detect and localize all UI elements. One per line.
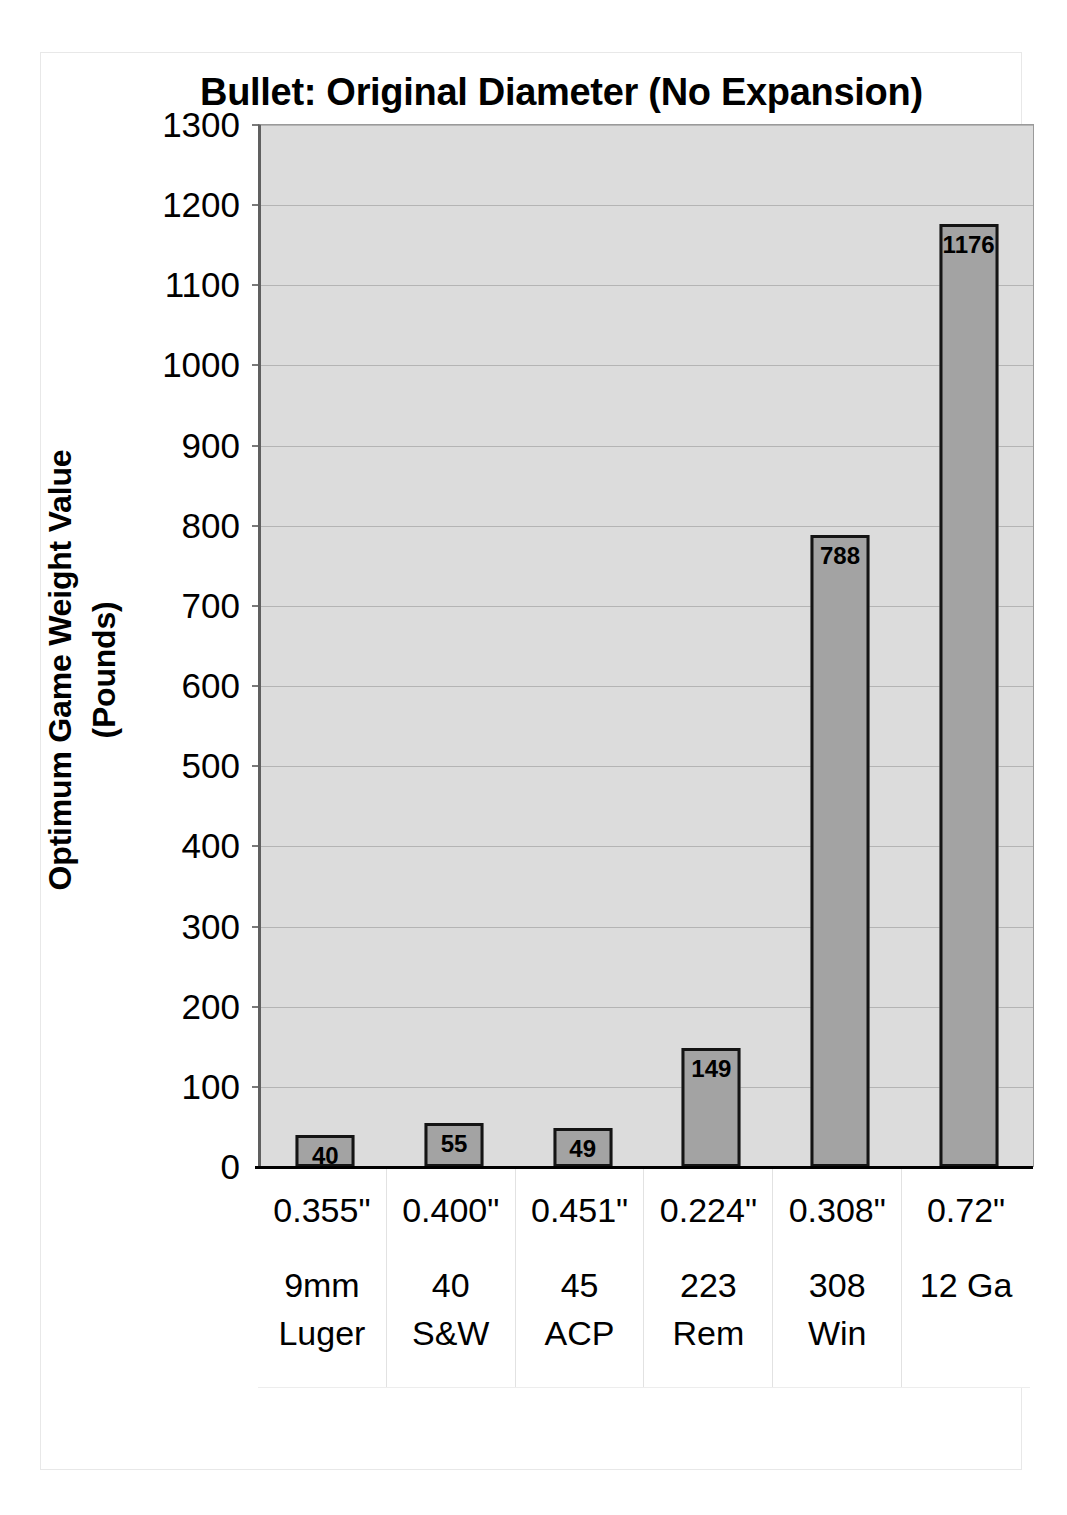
category-cell: 0.224"223Rem [644,1169,773,1387]
y-axis-tick-label: 200 [140,989,240,1024]
bar[interactable]: 40 [296,1135,355,1167]
category-cell: 0.355"9mmLuger [258,1169,387,1387]
category-name-label: 308Win [773,1261,901,1357]
bar-value-label: 788 [813,543,866,569]
category-name-label: 9mmLuger [258,1261,386,1357]
category-name-line-2: Luger [258,1309,386,1357]
category-name-line-1: 223 [644,1261,772,1309]
category-name-label: 45ACP [516,1261,644,1357]
y-axis-tick-label: 1300 [140,107,240,142]
category-name-label: 223Rem [644,1261,772,1357]
bar-slot: 788 [776,125,905,1167]
category-name-line-2: ACP [516,1309,644,1357]
bar[interactable]: 49 [553,1128,612,1167]
bar[interactable]: 149 [682,1048,741,1167]
bar[interactable]: 1176 [939,224,998,1167]
category-table-bottom-divider [258,1387,1030,1388]
y-axis-title-line-2: (Pounds) [82,310,126,1030]
category-name-line-2: Win [773,1309,901,1357]
bar-slot: 49 [518,125,647,1167]
category-diameter-label: 0.400" [387,1191,515,1229]
category-cell: 0.451"45ACP [516,1169,645,1387]
y-axis-tick-label: 300 [140,909,240,944]
category-diameter-label: 0.451" [516,1191,644,1229]
y-axis-tick-label: 700 [140,588,240,623]
category-name-label: 12 Ga [902,1261,1030,1309]
y-axis-title-line-1: Optimum Game Weight Value [38,310,82,1030]
plot-area: 4055491497881176 [258,124,1034,1167]
category-name-line-1: 12 Ga [902,1261,1030,1309]
y-axis-tick-label: 800 [140,508,240,543]
bar-slot: 55 [390,125,519,1167]
category-name-line-1: 308 [773,1261,901,1309]
category-cell: 0.308"308Win [773,1169,902,1387]
bar-slot: 149 [647,125,776,1167]
y-axis-tick-label: 100 [140,1069,240,1104]
category-name-line-1: 9mm [258,1261,386,1309]
category-name-line-1: 40 [387,1261,515,1309]
bar-slot: 40 [261,125,390,1167]
bar-slot: 1176 [904,125,1033,1167]
category-cell: 0.400"40S&W [387,1169,516,1387]
y-axis-tick-label: 0 [140,1149,240,1184]
category-diameter-label: 0.224" [644,1191,772,1229]
y-axis-tick-label: 1000 [140,347,240,382]
category-name-line-2: Rem [644,1309,772,1357]
category-table: 0.355"9mmLuger0.400"40S&W0.451"45ACP0.22… [258,1169,1030,1387]
category-diameter-label: 0.355" [258,1191,386,1229]
chart-title: Bullet: Original Diameter (No Expansion) [200,68,1040,116]
bar[interactable]: 788 [810,535,869,1167]
y-axis-ticks: 1300120011001000900800700600500400300200… [140,0,240,1515]
category-name-line-1: 45 [516,1261,644,1309]
category-diameter-label: 0.72" [902,1191,1030,1229]
y-axis-tick-label: 900 [140,428,240,463]
bar-value-label: 49 [556,1136,609,1162]
y-axis-tick-label: 500 [140,748,240,783]
category-name-label: 40S&W [387,1261,515,1357]
y-axis-tick-label: 1200 [140,187,240,222]
bar-value-label: 149 [685,1056,738,1082]
bar-value-label: 1176 [942,232,995,258]
y-axis-title: Optimum Game Weight Value (Pounds) [38,310,134,1030]
category-cell: 0.72"12 Ga [902,1169,1030,1387]
bar[interactable]: 55 [424,1123,483,1167]
category-diameter-label: 0.308" [773,1191,901,1229]
y-axis-tick-label: 400 [140,828,240,863]
category-name-line-2: S&W [387,1309,515,1357]
bar-value-label: 55 [427,1131,480,1157]
y-axis-tick-label: 1100 [140,267,240,302]
y-axis-tick-label: 600 [140,668,240,703]
